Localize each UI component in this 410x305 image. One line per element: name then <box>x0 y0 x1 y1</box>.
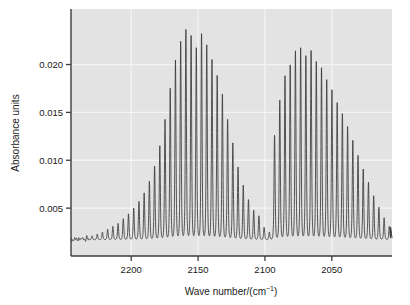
y-tick-label: 0.020 <box>39 59 63 70</box>
x-axis-title-tail: ) <box>274 286 277 297</box>
y-axis-title: Absorbance units <box>10 94 21 171</box>
x-axis-title-main: Wave number/(cm <box>185 286 266 297</box>
figure-container: 2200215021002050 0.0050.0100.0150.020 Wa… <box>0 0 410 305</box>
x-axis-title: Wave number/(cm−1) <box>185 285 278 297</box>
y-tick-label: 0.005 <box>39 203 63 214</box>
x-tick-label: 2050 <box>321 264 342 275</box>
x-tick-label: 2100 <box>254 264 275 275</box>
y-tick-label: 0.015 <box>39 107 63 118</box>
spectrum-chart: 2200215021002050 0.0050.0100.0150.020 Wa… <box>0 0 410 305</box>
x-tick-label: 2200 <box>121 264 142 275</box>
x-axis-title-superscript: −1 <box>266 285 274 292</box>
y-tick-label: 0.010 <box>39 155 63 166</box>
x-tick-label: 2150 <box>187 264 208 275</box>
